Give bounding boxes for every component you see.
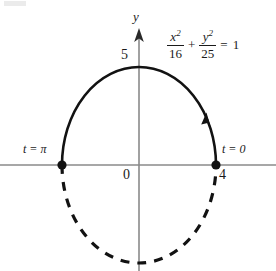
equation-equals-operator: = [219,37,228,53]
y-axis-label: y [133,10,139,23]
origin-label: 0 [123,168,130,182]
equation-term-y-denominator: 25 [199,46,216,61]
ellipse-figure: y 5 0 4 t = π t = 0 x2 16 + y2 25 = 1 [0,0,276,271]
y-tick-label-5: 5 [121,48,128,62]
ellipse-equation: x2 16 + y2 25 = 1 [167,30,240,60]
point-marker-t-pi [57,160,66,169]
equation-term-y-exponent: 2 [208,28,213,38]
equation-right-hand-side: 1 [232,37,241,53]
x-tick-label-4: 4 [219,168,226,182]
equation-term-x: x2 16 [167,30,184,60]
equation-term-x-denominator: 16 [167,46,184,61]
direction-arrowhead-icon [201,113,211,129]
annotation-t-pi: t = π [23,143,46,155]
equation-plus-operator: + [187,37,196,53]
equation-term-x-exponent: 2 [176,28,181,38]
equation-term-y: y2 25 [199,30,216,60]
equation-term-y-numerator: y2 [201,30,215,45]
equation-term-x-numerator: x2 [168,30,182,45]
annotation-t-zero: t = 0 [222,143,245,155]
